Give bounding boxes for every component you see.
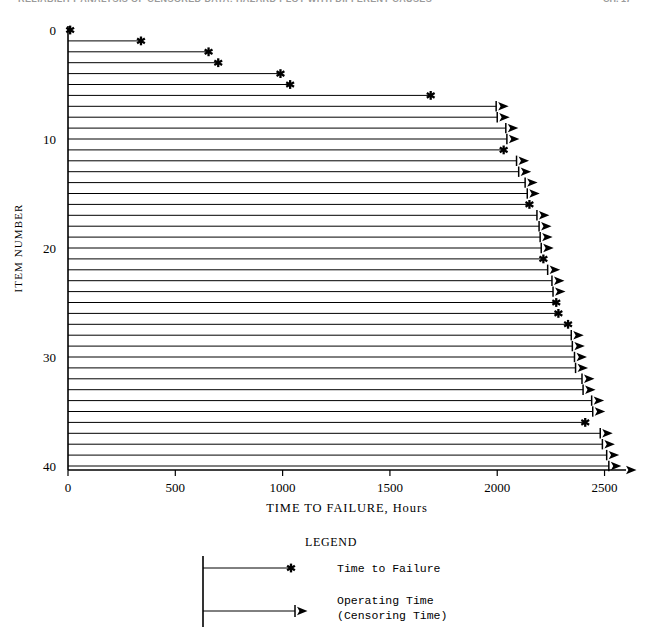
censored-marker-arrow-icon — [595, 407, 606, 415]
item-row — [68, 243, 554, 253]
item-rows-layer — [66, 26, 621, 472]
censored-marker-arrow-icon — [498, 102, 509, 110]
item-row — [68, 37, 145, 46]
item-row — [68, 255, 547, 264]
item-row — [68, 221, 552, 231]
item-row — [68, 58, 222, 67]
item-row — [68, 363, 588, 373]
censored-marker-arrow-icon — [509, 135, 519, 143]
item-row — [68, 123, 518, 133]
item-row — [68, 101, 509, 111]
item-row — [68, 210, 549, 220]
item-row — [68, 47, 212, 56]
censored-marker-arrow-icon — [574, 342, 585, 350]
legend-censored-label-line1: Operating Time — [337, 594, 434, 607]
item-row — [68, 309, 562, 318]
y-tick-label: 10 — [43, 132, 56, 147]
x-tick-label: 500 — [166, 480, 186, 495]
censored-marker-arrow-icon — [529, 189, 540, 197]
x-tick-label: 2500 — [592, 480, 618, 495]
x-tick-label: 2000 — [484, 480, 510, 495]
censored-marker-arrow-icon — [609, 451, 620, 459]
censored-marker-arrow-icon — [584, 375, 595, 383]
x-tick-label: 1000 — [270, 480, 296, 495]
item-row — [68, 450, 619, 460]
censored-marker-arrow-icon — [578, 364, 589, 372]
censored-marker-arrow-icon — [594, 396, 605, 404]
item-row — [68, 112, 510, 122]
item-row — [68, 330, 584, 340]
x-ticks-layer: 05001000150020002500 — [65, 470, 618, 495]
item-row — [68, 232, 553, 242]
item-row — [68, 265, 560, 275]
censored-marker-arrow-icon — [576, 353, 587, 361]
item-row — [68, 146, 508, 155]
item-row — [68, 352, 587, 362]
item-row — [68, 177, 538, 187]
item-row — [68, 156, 529, 166]
y-tick-label: 20 — [43, 241, 56, 256]
censored-marker-arrow-icon — [541, 222, 552, 230]
item-row — [68, 341, 585, 351]
y-tick-label: 40 — [43, 459, 56, 474]
legend-entry-censored: Operating Time (Censoring Time) — [203, 594, 447, 622]
item-row — [68, 276, 564, 286]
item-row — [68, 134, 519, 144]
censored-marker-arrow-icon — [554, 277, 565, 285]
item-row — [68, 91, 435, 100]
censored-marker-arrow-icon — [521, 168, 532, 176]
item-row — [68, 439, 615, 449]
censored-marker-arrow-icon — [602, 429, 613, 437]
x-axis-arrowhead — [626, 466, 637, 474]
censored-marker-arrow-icon — [527, 178, 538, 186]
arrow-icon — [297, 607, 308, 615]
y-ticks-layer: 010203040 — [43, 23, 56, 474]
event-plot: 010203040 05001000150020002500 TIME TO F… — [0, 0, 647, 633]
censored-marker-arrow-icon — [555, 287, 566, 295]
y-tick-label: 0 — [50, 23, 57, 38]
legend-censored-label-line2: (Censoring Time) — [337, 609, 447, 622]
censored-marker-arrow-icon — [573, 331, 584, 339]
legend-failure-label: Time to Failure — [337, 562, 441, 575]
censored-marker-arrow-icon — [499, 113, 510, 121]
x-tick-label: 1500 — [377, 480, 403, 495]
censored-marker-arrow-icon — [550, 266, 561, 274]
item-row — [68, 395, 604, 405]
censored-marker-arrow-icon — [543, 244, 554, 252]
y-axis-title: ITEM NUMBER — [12, 204, 24, 293]
item-row — [68, 188, 540, 198]
item-row — [68, 406, 605, 416]
censored-marker-arrow-icon — [611, 462, 622, 470]
censored-marker-arrow-icon — [585, 386, 596, 394]
censored-marker-arrow-icon — [604, 440, 615, 448]
item-row — [68, 428, 613, 438]
censored-marker-arrow-icon — [519, 157, 530, 165]
item-row — [68, 374, 595, 384]
item-row — [68, 69, 284, 78]
x-axis-title: TIME TO FAILURE, Hours — [266, 501, 427, 515]
y-tick-label: 30 — [43, 350, 56, 365]
item-row — [68, 298, 560, 307]
item-row — [68, 418, 589, 427]
item-row — [68, 80, 294, 89]
item-row — [68, 167, 531, 177]
x-tick-label: 0 — [65, 480, 72, 495]
legend-title: LEGEND — [305, 535, 357, 549]
censored-marker-arrow-icon — [539, 211, 550, 219]
censored-marker-arrow-icon — [542, 233, 553, 241]
chart-svg: 010203040 05001000150020002500 TIME TO F… — [0, 0, 647, 633]
item-row — [68, 320, 572, 329]
item-row — [68, 286, 566, 296]
item-row — [68, 200, 533, 209]
item-row — [68, 385, 596, 395]
legend: LEGEND Time to Failure Operating Time ( — [203, 535, 447, 627]
censored-marker-arrow-icon — [508, 124, 519, 132]
legend-entry-failure: Time to Failure — [203, 562, 441, 575]
